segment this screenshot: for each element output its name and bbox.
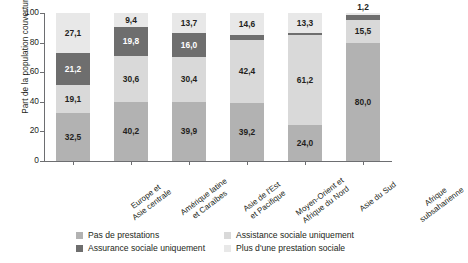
bar-group: 32,519,121,227,140,230,619,89,439,930,41… bbox=[44, 13, 392, 161]
bar-column[interactable]: 24,061,213,3 bbox=[288, 13, 322, 161]
bar-segment-value: 13,7 bbox=[181, 19, 197, 27]
bar-segment[interactable]: 39,9 bbox=[172, 102, 206, 161]
bar-column[interactable]: 39,242,414,6 bbox=[230, 13, 264, 161]
bar-segment-value: 32,5 bbox=[65, 133, 81, 141]
y-tick-label: 60 bbox=[30, 66, 39, 76]
x-tick-mark bbox=[131, 161, 132, 165]
bar-segment-value: 61,2 bbox=[297, 76, 313, 84]
bar-segment[interactable]: 80,0 bbox=[346, 43, 380, 161]
bar-segment[interactable]: 24,0 bbox=[288, 125, 322, 161]
x-tick-mark bbox=[247, 161, 248, 165]
bar-segment-value: 19,1 bbox=[65, 95, 81, 103]
bar-segment[interactable]: 15,5 bbox=[346, 20, 380, 43]
y-axis-title: Part de la population couverture (%) bbox=[21, 0, 30, 127]
bar-segment[interactable]: 9,4 bbox=[114, 13, 148, 27]
bar-column[interactable]: 39,930,416,013,7 bbox=[172, 13, 206, 161]
legend-item[interactable]: Pas de prestations bbox=[76, 230, 224, 240]
x-tick-mark bbox=[305, 161, 306, 165]
x-tick-mark bbox=[189, 161, 190, 165]
bar-segment[interactable] bbox=[346, 15, 380, 20]
bar-segment[interactable]: 13,3 bbox=[288, 13, 322, 33]
legend-label: Assurance sociale uniquement bbox=[88, 243, 205, 253]
bar-segment-value: 42,4 bbox=[239, 67, 255, 75]
y-tick-label: 80 bbox=[30, 37, 39, 47]
bar-segment-value: 13,3 bbox=[297, 19, 313, 27]
bar-segment[interactable]: 42,4 bbox=[230, 40, 264, 103]
bar-segment[interactable]: 19,8 bbox=[114, 27, 148, 56]
bar-segment-value: 15,5 bbox=[355, 27, 371, 35]
y-tick-label: 40 bbox=[30, 96, 39, 106]
bar-segment-value: 16,0 bbox=[181, 41, 197, 49]
bar-segment[interactable]: 14,6 bbox=[230, 13, 264, 35]
x-axis-line bbox=[44, 161, 392, 162]
bar-segment[interactable]: 27,1 bbox=[56, 13, 90, 53]
bar-segment[interactable] bbox=[288, 33, 322, 35]
legend-label: Assistance sociale uniquement bbox=[236, 230, 354, 240]
bar-segment[interactable] bbox=[230, 35, 264, 41]
bar-segment[interactable]: 30,4 bbox=[172, 57, 206, 102]
y-tick-label: 0 bbox=[34, 155, 39, 165]
legend-label: Plus d'une prestation sociale bbox=[236, 243, 345, 253]
bar-segment-value: 39,9 bbox=[181, 127, 197, 135]
x-tick-mark bbox=[363, 161, 364, 165]
bar-column[interactable]: 32,519,121,227,1 bbox=[56, 13, 90, 161]
legend-swatch bbox=[76, 232, 83, 239]
bar-segment-value: 30,4 bbox=[181, 75, 197, 83]
bar-segment-value: 14,6 bbox=[239, 20, 255, 28]
chart-legend: Pas de prestationsAssistance sociale uni… bbox=[76, 230, 396, 253]
x-tick-mark bbox=[73, 161, 74, 165]
bar-segment-value: 24,0 bbox=[297, 139, 313, 147]
bar-segment-value: 21,2 bbox=[65, 65, 81, 73]
bar-segment-value: 19,8 bbox=[123, 37, 139, 45]
bar-segment[interactable]: 13,7 bbox=[172, 13, 206, 33]
bar-segment-value: 80,0 bbox=[355, 98, 371, 106]
legend-item[interactable]: Assistance sociale uniquement bbox=[224, 230, 396, 240]
bar-segment-value: 9,4 bbox=[125, 16, 137, 24]
bar-segment[interactable]: 19,1 bbox=[56, 85, 90, 113]
bar-segment[interactable] bbox=[346, 13, 380, 15]
bar-segment[interactable]: 40,2 bbox=[114, 102, 148, 161]
bar-segment[interactable]: 21,2 bbox=[56, 53, 90, 84]
bar-segment-value: 40,2 bbox=[123, 127, 139, 135]
bar-segment[interactable]: 32,5 bbox=[56, 113, 90, 161]
bar-column[interactable]: 40,230,619,89,4 bbox=[114, 13, 148, 161]
y-tick-label: 100 bbox=[25, 7, 39, 17]
bar-column[interactable]: 80,015,51,2 bbox=[346, 13, 380, 161]
y-tick-label: 20 bbox=[30, 125, 39, 135]
y-tick-mark bbox=[40, 161, 44, 162]
bar-segment[interactable]: 61,2 bbox=[288, 35, 322, 126]
bar-segment-value: 39,2 bbox=[239, 128, 255, 136]
legend-item[interactable]: Plus d'une prestation sociale bbox=[224, 243, 396, 253]
bar-segment[interactable]: 16,0 bbox=[172, 33, 206, 57]
bar-segment[interactable]: 39,2 bbox=[230, 103, 264, 161]
bar-segment-value: 30,6 bbox=[123, 75, 139, 83]
bar-segment-value-outside: 1,2 bbox=[346, 2, 380, 12]
legend-swatch bbox=[224, 245, 231, 252]
legend-swatch bbox=[224, 232, 231, 239]
legend-item[interactable]: Assurance sociale uniquement bbox=[76, 243, 224, 253]
bar-segment-value: 27,1 bbox=[65, 29, 81, 37]
plot-area: 020406080100 32,519,121,227,140,230,619,… bbox=[44, 13, 392, 161]
legend-label: Pas de prestations bbox=[88, 230, 159, 240]
legend-swatch bbox=[76, 245, 83, 252]
bar-segment[interactable]: 30,6 bbox=[114, 56, 148, 101]
